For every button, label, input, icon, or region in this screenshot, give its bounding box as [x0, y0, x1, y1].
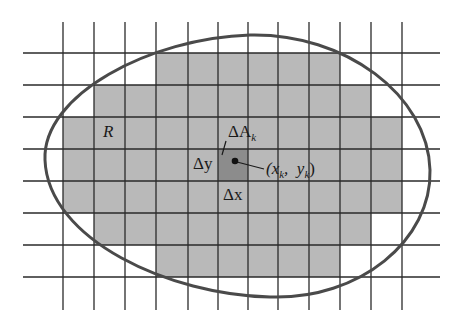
area-element-text: ΔA	[228, 122, 251, 141]
shaded-row	[94, 85, 371, 117]
riemann-partition-diagram	[0, 0, 462, 328]
delta-x-label: Δx	[223, 186, 242, 203]
area-element-label: ΔAk	[228, 123, 256, 143]
sample-point-dot	[232, 158, 239, 165]
point-label-close: )	[309, 159, 315, 178]
shaded-row	[94, 213, 371, 245]
area-element-subscript: k	[251, 131, 256, 143]
point-label-x: (x	[266, 159, 279, 178]
point-label-y: , y	[284, 159, 304, 178]
region-label-r: R	[103, 123, 113, 140]
delta-y-label: Δy	[193, 155, 212, 172]
sample-point-label: (xk, yk)	[266, 160, 315, 180]
diagram-canvas: R ΔAk Δy Δx (xk, yk)	[0, 0, 462, 328]
